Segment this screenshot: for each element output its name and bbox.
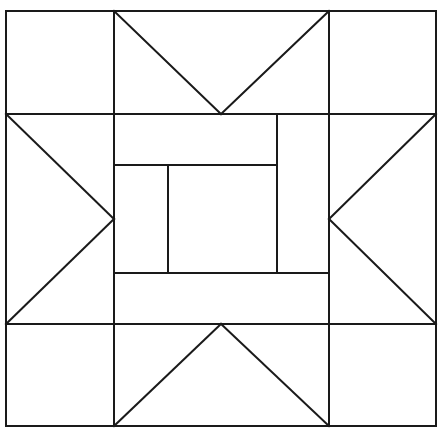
canvas-background <box>0 0 442 436</box>
quilt-block-figure: Quilt Block Line Diagram <box>0 0 442 436</box>
quilt-block-diagram: Quilt Block Line Diagram <box>0 0 442 436</box>
